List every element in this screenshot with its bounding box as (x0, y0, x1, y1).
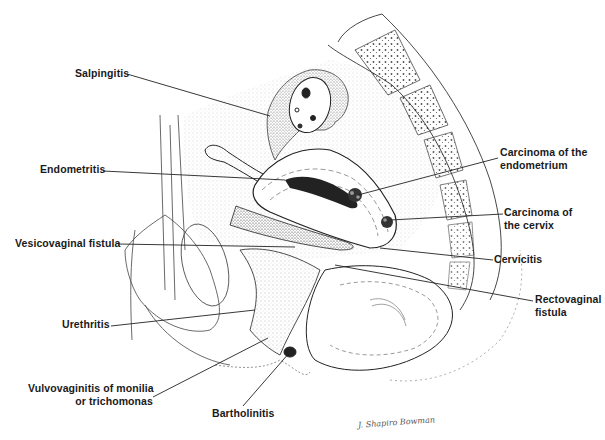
label-endometritis: Endometritis (40, 163, 105, 176)
label-rectovaginal-fistula: Rectovaginal fistula (535, 293, 602, 318)
label-urethritis: Urethritis (62, 318, 110, 331)
label-carcinoma-cervix: Carcinoma of the cervix (504, 206, 572, 231)
cervical-carcinoma-mass (381, 216, 393, 228)
label-carcinoma-cervix-line2: the cervix (504, 219, 572, 232)
endometrial-carcinoma-mass (348, 188, 362, 202)
label-vulvovaginitis-line2: or trichomonas (28, 395, 153, 408)
label-carcinoma-endometrium: Carcinoma of the endometrium (500, 146, 587, 171)
label-vulvovaginitis-line1: Vulvovaginitis of monilia (28, 382, 153, 395)
label-rectovaginal-line2: fistula (535, 306, 602, 319)
label-cervicitis: Cervicitis (494, 253, 542, 266)
label-vesicovaginal-fistula: Vesicovaginal fistula (15, 237, 120, 250)
label-carcinoma-endometrium-line2: endometrium (500, 159, 587, 172)
label-carcinoma-cervix-line1: Carcinoma of (504, 206, 572, 219)
label-bartholinitis: Bartholinitis (212, 407, 275, 420)
label-vulvovaginitis: Vulvovaginitis of monilia or trichomonas (28, 382, 153, 407)
label-rectovaginal-line1: Rectovaginal (535, 293, 602, 306)
label-salpingitis: Salpingitis (75, 67, 129, 80)
label-carcinoma-endometrium-line1: Carcinoma of the (500, 146, 587, 159)
vagina-rectum (215, 249, 522, 381)
